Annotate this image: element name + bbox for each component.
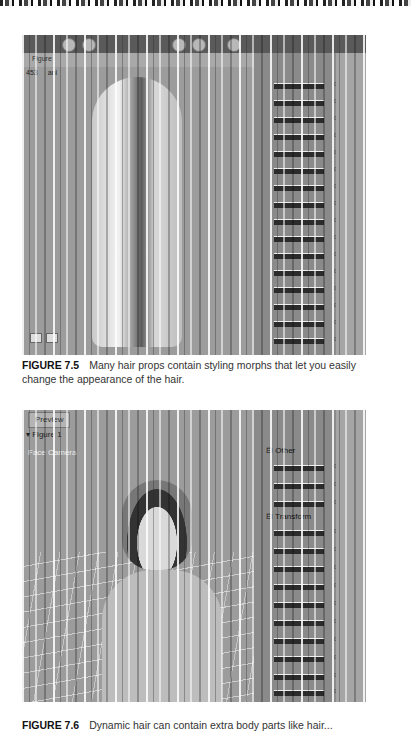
window-titlebar <box>22 35 366 53</box>
viewport-button-icon[interactable] <box>46 333 58 343</box>
parameter-dial[interactable] <box>274 219 324 225</box>
parameter-dial[interactable] <box>274 584 324 590</box>
frame-field[interactable]: 453 ani <box>26 69 57 76</box>
window-button-icon[interactable] <box>82 38 96 52</box>
camera-control-icon[interactable] <box>172 38 186 52</box>
figure-7-5-screenshot: Figure 453 ani 0.000 0.000 0.000 0.000 0… <box>22 35 366 355</box>
3d-viewport[interactable]: Preview ▾ Figure 1 Face Camera <box>22 410 254 702</box>
parameters-panel: 0.000 0.000 0.000 0.000 0.000 0.000 0.00… <box>254 53 366 355</box>
parameter-dial[interactable] <box>274 168 324 174</box>
scan-artifact-band <box>0 0 411 6</box>
camera-label: Face Camera <box>28 448 76 457</box>
panel-scrollbar[interactable] <box>336 410 366 702</box>
long-hair-figure <box>92 77 182 347</box>
parameter-dial[interactable] <box>274 304 324 310</box>
figure-7-5-caption: FIGURE 7.5Many hair props contain stylin… <box>22 358 372 386</box>
parameter-dial[interactable] <box>274 602 324 608</box>
group-transform[interactable]: ⊟ Transform <box>266 512 311 521</box>
parameter-dial[interactable] <box>274 100 324 106</box>
camera-control-icon[interactable] <box>227 38 241 52</box>
figure-label: FIGURE 7.6 <box>22 719 79 731</box>
parameter-dial[interactable] <box>274 151 324 157</box>
viewport-button-icon[interactable] <box>30 333 42 343</box>
panel-scrollbar[interactable] <box>336 53 366 355</box>
parameter-dial[interactable] <box>274 638 324 644</box>
parameter-dial[interactable] <box>274 620 324 626</box>
parameter-dial[interactable] <box>274 117 324 123</box>
parameter-dial[interactable] <box>274 656 324 662</box>
viewport-controls <box>30 329 62 347</box>
parameter-dial[interactable] <box>274 501 324 507</box>
figure-body <box>102 570 222 702</box>
tab-preview[interactable]: Preview <box>28 412 70 428</box>
parameter-dial[interactable] <box>274 287 324 293</box>
parameter-dial[interactable] <box>274 530 324 536</box>
window-button-icon[interactable] <box>62 38 76 52</box>
parameter-dial[interactable] <box>274 483 324 489</box>
parameter-dial[interactable] <box>274 185 324 191</box>
parameter-dial[interactable] <box>274 134 324 140</box>
collapse-icon: ⊟ <box>266 446 273 455</box>
parameter-dial[interactable] <box>274 566 324 572</box>
parameter-dial[interactable] <box>274 548 324 554</box>
parameter-dial[interactable] <box>274 465 324 471</box>
figure-field-label: Figure <box>32 55 52 62</box>
parameter-dial[interactable] <box>274 338 324 344</box>
group-other[interactable]: ⊟ Other <box>266 446 295 455</box>
parameter-dial[interactable] <box>274 674 324 680</box>
figure-label: FIGURE 7.5 <box>22 359 79 371</box>
3d-viewport[interactable]: 453 ani <box>22 67 254 355</box>
figure-7-6-caption: FIGURE 7.6Dynamic hair can contain extra… <box>22 718 372 732</box>
parameter-dial[interactable] <box>274 202 324 208</box>
parameter-dial[interactable] <box>274 83 324 89</box>
camera-control-icon[interactable] <box>192 38 206 52</box>
parameter-dial[interactable] <box>274 690 324 696</box>
figure-select[interactable]: ▾ Figure 1 <box>26 430 62 439</box>
parameters-panel: ⊟ Other 0.000 0.000 0.000 ⊟ Transform 0.… <box>254 410 366 702</box>
caption-text: Dynamic hair can contain extra body part… <box>89 719 332 731</box>
collapse-icon: ⊟ <box>266 512 273 521</box>
figure-7-6-screenshot: Preview ▾ Figure 1 Face Camera ⊟ Other 0… <box>22 410 366 702</box>
parameter-dial[interactable] <box>274 253 324 259</box>
figure-head-with-hair <box>122 480 192 570</box>
parameter-dial[interactable] <box>274 236 324 242</box>
parameter-dial[interactable] <box>274 270 324 276</box>
parameter-dial[interactable] <box>274 321 324 327</box>
